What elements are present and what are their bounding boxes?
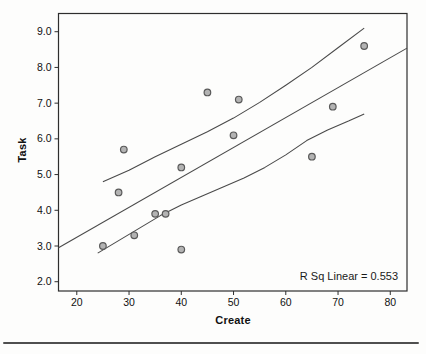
y-tick-label: 2.0 (37, 275, 52, 287)
y-tick-label: 8.0 (37, 61, 52, 73)
data-point (230, 132, 237, 139)
x-tick-label: 20 (71, 296, 83, 308)
x-tick-label: 70 (332, 296, 344, 308)
y-tick-label: 4.0 (37, 204, 52, 216)
plot-frame (59, 14, 408, 292)
y-axis-title: Task (16, 137, 28, 162)
data-point (178, 246, 185, 253)
y-tick-label: 9.0 (37, 25, 52, 37)
data-point (121, 146, 128, 153)
r-squared-annotation: R Sq Linear = 0.553 (300, 270, 398, 282)
data-point (100, 243, 107, 250)
x-tick-label: 40 (175, 296, 187, 308)
data-point (131, 232, 138, 239)
upper-confidence-band (103, 28, 364, 182)
scatterplot-page: 203040506070802.03.04.05.06.07.08.09.0 T… (0, 0, 426, 354)
y-tick-label: 3.0 (37, 240, 52, 252)
data-point (309, 153, 316, 160)
x-axis-title: Create (215, 314, 250, 326)
separator-line (3, 342, 419, 344)
data-point (235, 96, 242, 103)
fit-line (59, 48, 408, 248)
x-tick-label: 30 (123, 296, 135, 308)
x-tick-label: 60 (280, 296, 292, 308)
data-point (162, 211, 169, 218)
y-tick-label: 5.0 (37, 168, 52, 180)
y-tick-label: 6.0 (37, 132, 52, 144)
data-point (178, 164, 185, 171)
scatter-plot: 203040506070802.03.04.05.06.07.08.09.0 (0, 0, 426, 354)
x-tick-label: 50 (228, 296, 240, 308)
y-tick-label: 7.0 (37, 97, 52, 109)
data-point (330, 103, 337, 110)
data-point (204, 89, 211, 96)
data-point (361, 43, 368, 50)
data-point (115, 189, 122, 196)
data-point (152, 211, 159, 218)
x-tick-label: 80 (384, 296, 396, 308)
